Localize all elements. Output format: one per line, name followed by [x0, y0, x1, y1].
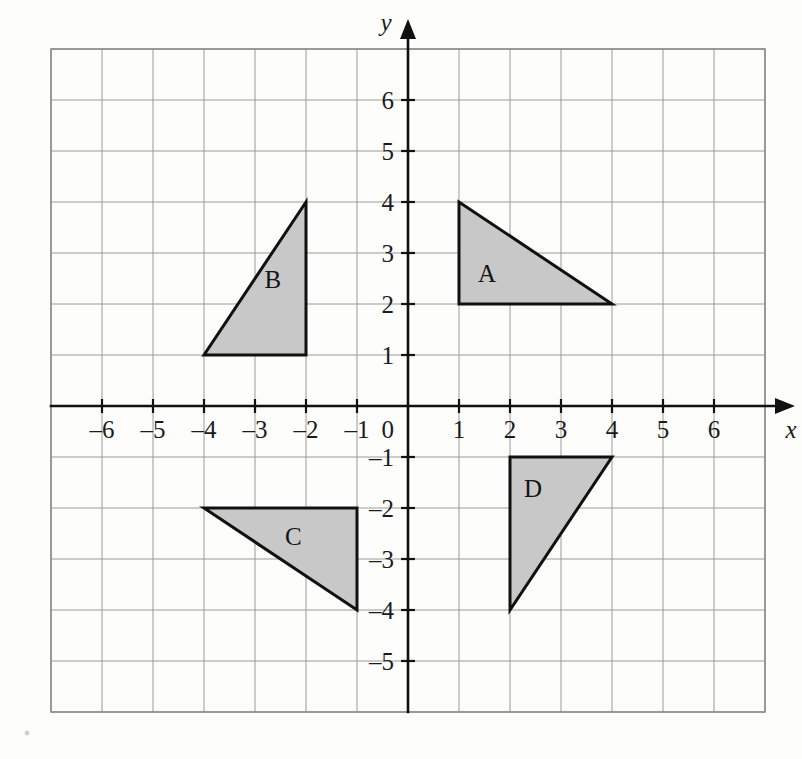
x-tick-label: –3 [242, 416, 268, 443]
y-tick-label: 2 [382, 291, 395, 318]
y-tick-label: –5 [368, 648, 394, 675]
y-tick-label: 6 [382, 87, 395, 114]
y-tick-label: 3 [382, 240, 395, 267]
triangle-label-c: C [285, 523, 302, 550]
y-axis-arrowhead [400, 19, 416, 39]
x-tick-label: –6 [89, 416, 115, 443]
origin-label: 0 [382, 416, 395, 443]
x-tick-label: 3 [555, 416, 568, 443]
triangle-label-b: B [265, 266, 282, 293]
x-tick-label: –5 [140, 416, 166, 443]
y-tick-label: 4 [382, 189, 395, 216]
figure-page: –6–5–4–3–2–1123456654321–1–2–3–4–50 xy A… [0, 0, 802, 759]
y-tick-label: –2 [368, 495, 394, 522]
x-tick-label: –2 [293, 416, 319, 443]
axis-lines [51, 19, 795, 712]
x-tick-label: 5 [657, 416, 670, 443]
coordinate-plane: –6–5–4–3–2–1123456654321–1–2–3–4–50 xy A… [0, 0, 802, 759]
y-tick-label: –1 [368, 444, 394, 471]
x-tick-label: 1 [453, 416, 466, 443]
x-axis-arrowhead [775, 398, 795, 414]
x-tick-label: 2 [504, 416, 517, 443]
triangle-label-d: D [524, 475, 542, 502]
y-tick-label: –3 [368, 546, 394, 573]
triangle-label-a: A [478, 260, 496, 287]
y-tick-label: –4 [368, 597, 395, 624]
scan-speck [25, 731, 30, 736]
x-tick-label: –1 [344, 416, 370, 443]
x-tick-label: –4 [191, 416, 218, 443]
x-tick-label: 6 [708, 416, 721, 443]
axis-name-labels: xy [377, 9, 796, 443]
y-axis-label: y [377, 9, 392, 36]
x-tick-label: 4 [606, 416, 619, 443]
x-axis-label: x [784, 416, 796, 443]
y-tick-label: 5 [382, 138, 395, 165]
axis-tick-labels: –6–5–4–3–2–1123456654321–1–2–3–4–50 [89, 87, 721, 675]
y-tick-label: 1 [382, 342, 395, 369]
